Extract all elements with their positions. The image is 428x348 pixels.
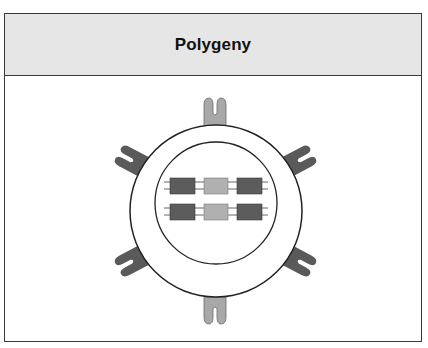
gene-dark-2c	[237, 204, 262, 220]
gene-dark-2a	[170, 204, 195, 220]
polygeny-diagram	[0, 0, 428, 348]
gene-light-2b	[204, 204, 228, 220]
nucleus	[155, 142, 277, 264]
gene-dark-1a	[170, 178, 195, 194]
gene-light-1b	[204, 178, 228, 194]
gene-dark-1c	[237, 178, 262, 194]
